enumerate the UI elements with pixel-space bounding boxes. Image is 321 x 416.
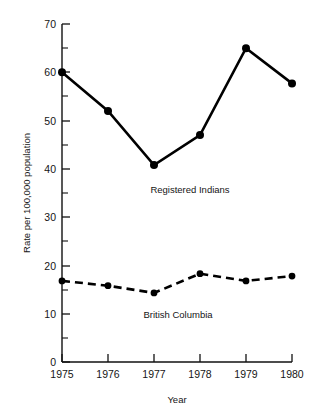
data-point <box>150 161 158 169</box>
data-point <box>196 131 204 139</box>
data-point <box>151 290 158 297</box>
y-tick-label-10: 10 <box>44 308 56 320</box>
x-axis-title: Year <box>167 394 186 405</box>
y-tick-label-20: 20 <box>44 260 56 272</box>
data-point <box>59 277 66 284</box>
data-point <box>197 270 204 277</box>
x-tick-label-1975: 1975 <box>50 368 74 380</box>
chart-canvas: 70 60 50 40 30 20 10 0 1975 1976 1977 19… <box>0 0 321 416</box>
chart-background <box>0 0 321 416</box>
data-point <box>289 273 296 280</box>
x-tick-label-1977: 1977 <box>142 368 166 380</box>
data-point <box>58 68 66 76</box>
data-point <box>104 107 112 115</box>
series-annotation-registered-indians: Registered Indians <box>150 184 229 195</box>
x-tick-label-1976: 1976 <box>96 368 120 380</box>
x-tick-label-1979: 1979 <box>234 368 258 380</box>
y-tick-label-60: 60 <box>44 66 56 78</box>
line-chart-figure: 70 60 50 40 30 20 10 0 1975 1976 1977 19… <box>0 0 321 416</box>
data-point <box>242 44 250 52</box>
x-tick-label-1980: 1980 <box>280 368 304 380</box>
y-tick-label-70: 70 <box>44 18 56 30</box>
data-point <box>243 277 250 284</box>
series-annotation-british-columbia: British Columbia <box>143 309 213 320</box>
data-point <box>105 282 112 289</box>
y-tick-label-40: 40 <box>44 163 56 175</box>
y-tick-label-30: 30 <box>44 211 56 223</box>
y-axis-title: Rate per 100,000 population <box>21 133 32 253</box>
x-tick-label-1978: 1978 <box>188 368 212 380</box>
data-point <box>288 79 296 87</box>
y-tick-label-0: 0 <box>50 356 56 368</box>
y-tick-label-50: 50 <box>44 115 56 127</box>
